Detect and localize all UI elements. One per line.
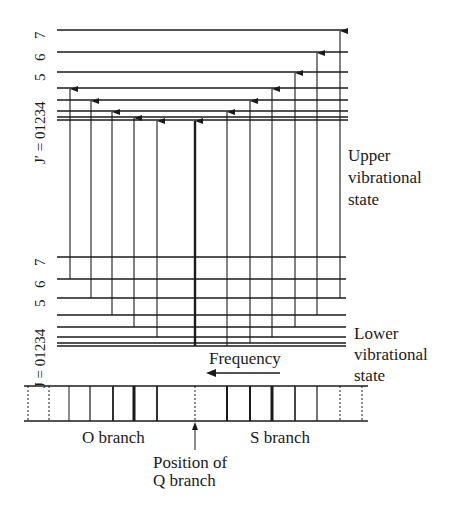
spectrum-strip bbox=[24, 386, 368, 421]
lower-state-title-line3: state bbox=[354, 366, 385, 386]
energy-level-diagram bbox=[0, 0, 470, 506]
q-position-label-line1: Position of bbox=[153, 453, 227, 473]
upper-j5-label: 5 bbox=[32, 74, 49, 82]
lower-state-title-line2: vibrational bbox=[354, 345, 428, 365]
upper-j6-label: 6 bbox=[32, 54, 49, 62]
upper-state-title-line2: vibrational bbox=[348, 168, 422, 188]
lower-j-axis-label: J = 01234 bbox=[32, 329, 49, 388]
lower-state-title-line1: Lower bbox=[354, 324, 398, 344]
lower-j7-label: 7 bbox=[32, 259, 49, 267]
frequency-arrow bbox=[206, 369, 280, 377]
frequency-label: Frequency bbox=[209, 349, 281, 369]
upper-j7-label: 7 bbox=[32, 32, 49, 40]
q-position-pointer bbox=[192, 422, 198, 450]
o-branch-label: O branch bbox=[82, 428, 145, 448]
lower-j6-label: 6 bbox=[32, 281, 49, 289]
transition-arrows bbox=[70, 31, 340, 346]
upper-j-axis-label: J′ = 01234 bbox=[32, 101, 49, 164]
lower-j5-label: 5 bbox=[32, 300, 49, 308]
upper-state-title-line3: state bbox=[348, 190, 379, 210]
q-position-label-line2: Q branch bbox=[153, 471, 216, 491]
upper-state-title-line1: Upper bbox=[348, 146, 390, 166]
lower-level-lines bbox=[57, 257, 346, 346]
s-branch-label: S branch bbox=[250, 428, 310, 448]
upper-level-lines bbox=[57, 30, 348, 120]
